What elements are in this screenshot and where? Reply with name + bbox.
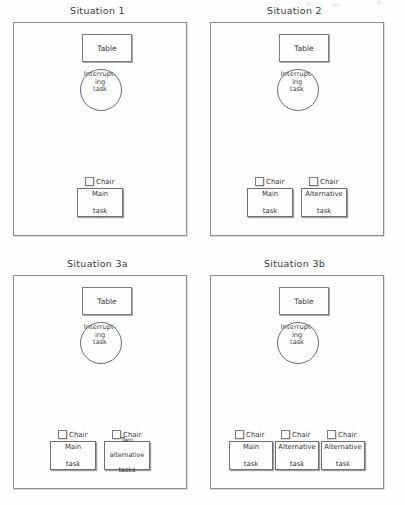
chair-icon — [58, 430, 67, 439]
interrupting-task-circle — [277, 322, 319, 364]
panel-title: Situation 2 — [205, 5, 384, 16]
chair-icon — [235, 430, 244, 439]
chair-marker: Chair — [58, 430, 87, 439]
station: Chair Alternativetask — [302, 177, 346, 217]
interrupting-task-circle — [80, 69, 122, 111]
task-label: Alternativetask — [303, 190, 344, 215]
task-box: Maintask — [50, 441, 96, 470]
table-box: Table — [82, 287, 132, 315]
station: Chair Twoalternativetasks — [105, 430, 149, 470]
table-box: Table — [82, 34, 132, 62]
station-row: Chair Maintask Chair Alternativetask — [211, 430, 383, 470]
task-label: Maintask — [241, 443, 261, 468]
task-box: Alternativetask — [275, 441, 319, 470]
panel-situation-2: Situation 2 Table Interrupt- ing task Ch… — [205, 5, 384, 245]
panel-grid: Situation 1 Table Interrupt- ing task Ch… — [0, 0, 405, 505]
chair-label: Chair — [96, 178, 114, 186]
chair-label: Chair — [320, 178, 338, 186]
chair-icon — [327, 430, 336, 439]
station: Chair Alternativetask — [276, 430, 318, 470]
task-box: Alternativetask — [321, 441, 365, 470]
station: Chair Maintask — [51, 430, 95, 470]
table-label: Table — [294, 44, 313, 53]
chair-marker: Chair — [309, 177, 338, 186]
task-label: Maintask — [90, 190, 110, 215]
table-label: Table — [294, 297, 313, 306]
task-label: Maintask — [260, 190, 280, 215]
station-row: Chair Maintask Chair Twoalternativetasks — [14, 430, 186, 470]
chair-icon — [309, 177, 318, 186]
task-box: Alternativetask — [301, 188, 347, 217]
station: Chair Maintask — [78, 177, 122, 217]
room-outline: Table Interrupt- ing task Chair — [13, 22, 187, 236]
room-outline: Table Interrupt- ing task Chair — [210, 22, 384, 236]
station: Chair Maintask — [248, 177, 292, 217]
station: Chair Alternativetask — [322, 430, 364, 470]
table-box: Table — [279, 34, 329, 62]
task-box: Maintask — [77, 188, 123, 217]
chair-label: Chair — [338, 431, 356, 439]
table-label: Table — [97, 44, 116, 53]
room-outline: Table Interrupt- ing task Chair — [13, 275, 187, 489]
interrupting-task-circle — [277, 69, 319, 111]
chair-marker: Chair — [327, 430, 356, 439]
diagram-sheet: Situation 1 Table Interrupt- ing task Ch… — [0, 0, 405, 505]
interrupting-task-circle — [80, 322, 122, 364]
chair-icon — [85, 177, 94, 186]
station: Chair Maintask — [230, 430, 272, 470]
chair-marker: Chair — [85, 177, 114, 186]
panel-situation-1: Situation 1 Table Interrupt- ing task Ch… — [8, 5, 187, 245]
chair-marker: Chair — [281, 430, 310, 439]
task-label: Alternativetask — [322, 443, 363, 468]
table-label: Table — [97, 297, 116, 306]
chair-icon — [255, 177, 264, 186]
task-label: Alternativetask — [276, 443, 317, 468]
chair-icon — [281, 430, 290, 439]
chair-marker: Chair — [255, 177, 284, 186]
task-label: Twoalternativetasks — [108, 437, 147, 474]
room-outline: Table Interrupt- ing task Chair — [210, 275, 384, 489]
panel-title: Situation 1 — [8, 5, 187, 16]
chair-label: Chair — [246, 431, 264, 439]
panel-title: Situation 3a — [8, 258, 187, 269]
task-label: Maintask — [63, 443, 83, 468]
task-box: Maintask — [229, 441, 273, 470]
chair-label: Chair — [292, 431, 310, 439]
chair-marker: Chair — [235, 430, 264, 439]
table-box: Table — [279, 287, 329, 315]
chair-label: Chair — [69, 431, 87, 439]
chair-label: Chair — [266, 178, 284, 186]
task-box: Maintask — [247, 188, 293, 217]
panel-situation-3a: Situation 3a Table Interrupt- ing task C… — [8, 258, 187, 498]
task-box: Twoalternativetasks — [104, 441, 150, 470]
station-row: Chair Maintask — [14, 177, 186, 217]
panel-title: Situation 3b — [205, 258, 384, 269]
panel-situation-3b: Situation 3b Table Interrupt- ing task C… — [205, 258, 384, 498]
station-row: Chair Maintask Chair Alternativetask — [211, 177, 383, 217]
